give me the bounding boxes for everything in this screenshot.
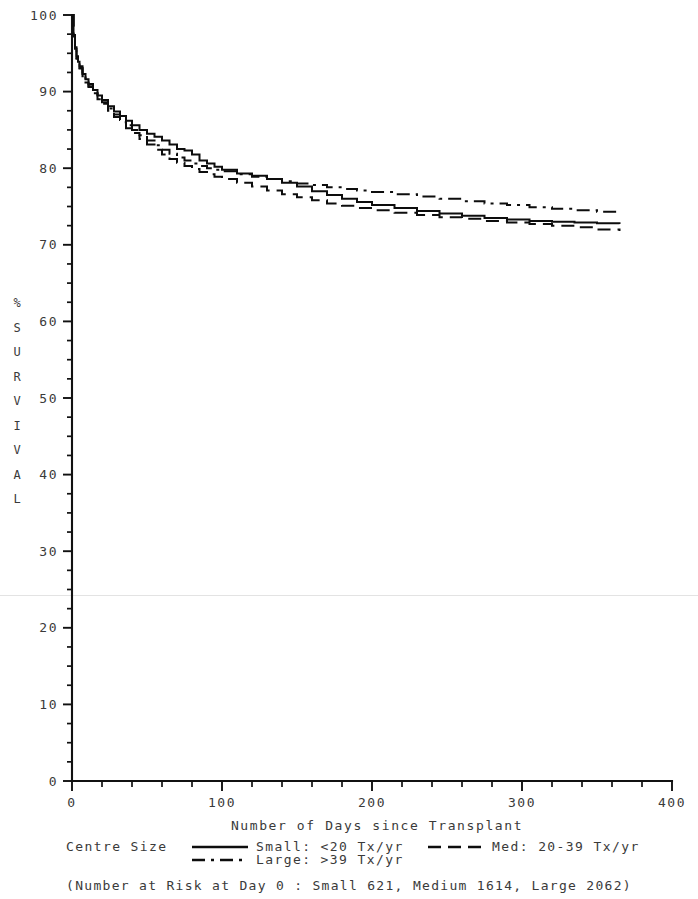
y-axis-title-char: V — [13, 394, 20, 408]
chart-legend: Centre SizeSmall: <20 Tx/yrMed: 20-39 Tx… — [66, 839, 640, 867]
y-tick-label: 100 — [30, 8, 58, 23]
legend-title: Centre Size — [66, 839, 168, 854]
chart-canvas: 0102030405060708090100 0100200300400 %SU… — [0, 0, 698, 899]
y-tick-label: 0 — [49, 774, 58, 789]
y-tick-label: 40 — [39, 467, 58, 482]
y-axis-title: %SURVIVAL — [13, 296, 21, 506]
y-axis-title-char: V — [13, 443, 20, 457]
footnote-text: (Number at Risk at Day 0 : Small 621, Me… — [66, 878, 632, 893]
legend-entry-label: Large: >39 Tx/yr — [256, 852, 404, 867]
curve-large — [72, 15, 620, 213]
y-tick-label: 20 — [39, 620, 58, 635]
y-tick-label: 70 — [39, 237, 58, 252]
x-axis-title: Number of Days since Transplant — [231, 818, 523, 833]
x-tick-label: 100 — [208, 795, 236, 810]
y-tick-label: 30 — [39, 544, 58, 559]
y-axis-title-char: L — [13, 492, 20, 506]
data-curves — [72, 15, 620, 231]
y-tick-label: 10 — [39, 697, 58, 712]
x-axis-title-text: Number of Days since Transplant — [231, 818, 523, 833]
x-tick-label: 300 — [508, 795, 536, 810]
chart-footnote: (Number at Risk at Day 0 : Small 621, Me… — [66, 878, 632, 893]
x-tick-label: 0 — [67, 795, 76, 810]
legend-entry-label: Med: 20-39 Tx/yr — [492, 839, 640, 854]
y-tick-label: 90 — [39, 84, 58, 99]
y-tick-label: 60 — [39, 314, 58, 329]
y-tick-label: 50 — [39, 391, 58, 406]
y-axis-title-char: A — [13, 468, 21, 482]
x-tick-label: 200 — [358, 795, 386, 810]
curve-small — [72, 15, 620, 224]
y-axis-title-char: U — [13, 345, 20, 359]
y-axis-title-char: % — [13, 296, 21, 310]
x-axis: 0100200300400 — [67, 781, 686, 810]
y-axis: 0102030405060708090100 — [30, 8, 72, 789]
survival-chart: 0102030405060708090100 0100200300400 %SU… — [0, 0, 698, 899]
y-tick-label: 80 — [39, 161, 58, 176]
y-axis-title-char: I — [13, 419, 20, 433]
x-tick-label: 400 — [658, 795, 686, 810]
y-axis-title-char: R — [13, 370, 21, 384]
y-axis-title-char: S — [13, 321, 20, 335]
